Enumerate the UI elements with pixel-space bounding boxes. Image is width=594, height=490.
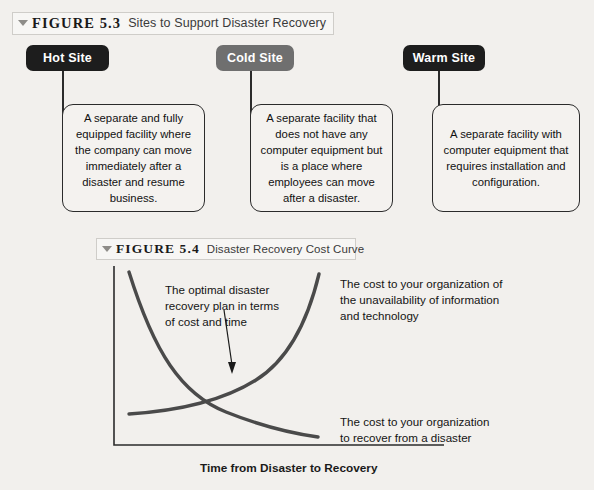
annotation-unavailability-line-3: and technology	[340, 308, 502, 324]
site-description-warm: A separate facility with computer equipm…	[432, 104, 580, 212]
figure-54-number: FIGURE 5.4	[116, 241, 200, 257]
figure-53-caption: FIGURE 5.3 Sites to Support Disaster Rec…	[12, 12, 334, 35]
site-label-cold: Cold Site	[216, 45, 294, 71]
chart-x-axis-label: Time from Disaster to Recovery	[200, 461, 377, 475]
annotation-optimal-plan: The optimal disaster recovery plan in te…	[165, 282, 279, 330]
annotation-unavailability-line-2: the unavailability of information	[340, 292, 502, 308]
figure-54-caption: FIGURE 5.4 Disaster Recovery Cost Curve	[96, 238, 356, 260]
site-label-hot: Hot Site	[26, 45, 109, 71]
annotation-recovery-cost: The cost to your organization to recover…	[340, 414, 490, 446]
annotation-optimal-line-1: The optimal disaster	[165, 282, 279, 298]
site-description-cold: A separate facility that does not have a…	[250, 104, 393, 212]
triangle-marker-icon	[18, 20, 28, 26]
annotation-unavailability-line-1: The cost to your organization of	[340, 276, 502, 292]
annotation-recovery-line-1: The cost to your organization	[340, 414, 490, 430]
figure-54-title: Disaster Recovery Cost Curve	[207, 243, 364, 255]
figure-53-number: FIGURE 5.3	[32, 15, 121, 32]
annotation-recovery-line-2: to recover from a disaster	[340, 430, 490, 446]
optimal-point-arrow-head-icon	[228, 362, 236, 374]
annotation-optimal-line-2: recovery plan in terms	[165, 298, 279, 314]
page-root: FIGURE 5.3 Sites to Support Disaster Rec…	[0, 0, 594, 490]
site-label-warm: Warm Site	[403, 45, 485, 71]
annotation-unavailability-cost: The cost to your organization of the una…	[340, 276, 502, 324]
annotation-optimal-line-3: of cost and time	[165, 314, 279, 330]
triangle-marker-icon	[102, 246, 112, 252]
figure-53-title: Sites to Support Disaster Recovery	[128, 16, 326, 30]
site-description-hot: A separate and fully equipped facility w…	[62, 104, 205, 212]
